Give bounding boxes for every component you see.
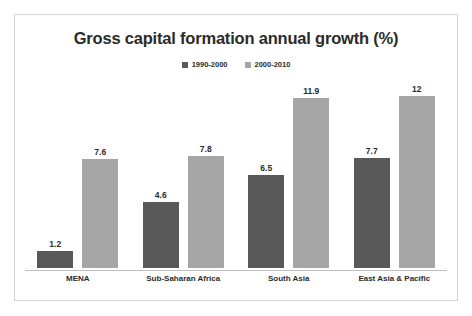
bar-group: 1.2 7.6: [25, 75, 131, 268]
chart-legend: 1990-2000 2000-2010: [15, 60, 457, 69]
x-axis-category-labels: MENA Sub-Saharan Africa South Asia East …: [25, 274, 447, 283]
bar-1990-2000[interactable]: [354, 158, 390, 268]
bar-2000-2010[interactable]: [188, 156, 224, 268]
bar-2000-2010[interactable]: [82, 159, 118, 268]
bar-column[interactable]: 6.5: [248, 75, 284, 268]
bar-group: 4.6 7.8: [131, 75, 237, 268]
bar-column[interactable]: 11.9: [293, 75, 329, 268]
legend-swatch-icon: [245, 62, 251, 68]
bar-column[interactable]: 4.6: [143, 75, 179, 268]
plot-area: 1.2 7.6 4.6 7.8: [25, 75, 447, 268]
category-label: Sub-Saharan Africa: [131, 274, 237, 283]
bar-column[interactable]: 7.7: [354, 75, 390, 268]
bar-column[interactable]: 7.6: [82, 75, 118, 268]
legend-label: 1990-2000: [192, 60, 228, 69]
category-label: East Asia & Pacific: [342, 274, 448, 283]
bar-value-label: 11.9: [303, 87, 319, 96]
chart-title: Gross capital formation annual growth (%…: [15, 29, 457, 48]
bar-column[interactable]: 7.8: [188, 75, 224, 268]
bar-column[interactable]: 12: [399, 75, 435, 268]
bar-value-label: 6.5: [260, 164, 272, 173]
chart-frame: Gross capital formation annual growth (%…: [14, 14, 458, 301]
bar-value-label: 4.6: [155, 191, 167, 200]
bar-column[interactable]: 1.2: [37, 75, 73, 268]
bar-1990-2000[interactable]: [248, 175, 284, 268]
legend-label: 2000-2010: [255, 60, 291, 69]
bar-group: 6.5 11.9: [236, 75, 342, 268]
bar-value-label: 7.7: [366, 147, 378, 156]
bar-2000-2010[interactable]: [399, 96, 435, 268]
bar-2000-2010[interactable]: [293, 98, 329, 268]
legend-swatch-icon: [182, 62, 188, 68]
bar-value-label: 7.8: [200, 145, 212, 154]
x-axis-line: [25, 270, 447, 271]
bar-value-label: 7.6: [94, 148, 106, 157]
bar-1990-2000[interactable]: [37, 251, 73, 268]
bar-groups: 1.2 7.6 4.6 7.8: [25, 75, 447, 268]
legend-item-1990-2000[interactable]: 1990-2000: [182, 60, 228, 69]
bar-group: 7.7 12: [342, 75, 448, 268]
bar-value-label: 1.2: [49, 240, 61, 249]
bar-value-label: 12: [412, 85, 421, 94]
category-label: South Asia: [236, 274, 342, 283]
legend-item-2000-2010[interactable]: 2000-2010: [245, 60, 291, 69]
category-label: MENA: [25, 274, 131, 283]
bar-1990-2000[interactable]: [143, 202, 179, 268]
